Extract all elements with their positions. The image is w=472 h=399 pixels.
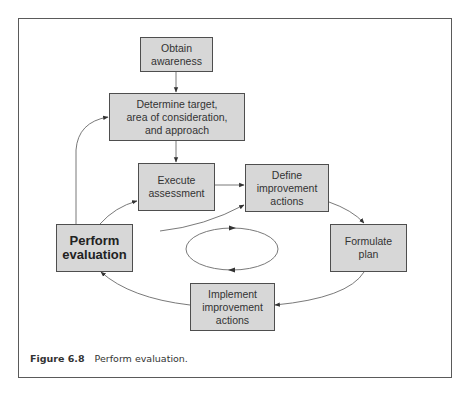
cycle-arrow-top-icon [229, 226, 236, 231]
figure-caption-text: Perform evaluation. [95, 353, 188, 364]
node-execute-assessment: Execute assessment [138, 163, 215, 211]
node-implement-improvement-actions: Implement improvement actions [190, 283, 275, 331]
edge-perform-determine [76, 117, 108, 224]
edge-formulate-implement [275, 272, 364, 305]
edge-implement-perform [101, 272, 190, 305]
node-formulate-plan: Formulate plan [330, 224, 407, 272]
figure-caption: Figure 6.8Perform evaluation. [30, 353, 188, 364]
edge-perform-execute [100, 201, 137, 224]
node-define-improvement-actions: Define improvement actions [245, 164, 329, 212]
figure-label: Figure 6.8 [30, 353, 85, 364]
edge-define-formulate [329, 202, 364, 223]
node-obtain-awareness: Obtain awareness [140, 37, 213, 72]
cycle-arrow-bottom-icon [228, 268, 235, 273]
node-determine-target: Determine target, area of consideration,… [109, 93, 245, 141]
cycle-ellipse [186, 228, 278, 270]
node-perform-evaluation: Perform evaluation [56, 224, 133, 272]
connector-layer [0, 0, 472, 399]
